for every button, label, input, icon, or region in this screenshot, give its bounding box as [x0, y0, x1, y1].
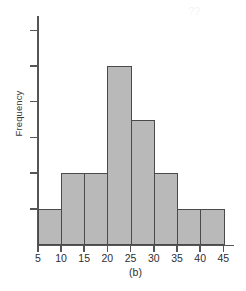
x-tick-label-35: 35	[164, 252, 190, 264]
histogram-bar	[107, 66, 132, 245]
histogram-bar	[61, 173, 86, 244]
x-tick-label-25: 25	[118, 252, 144, 264]
histogram-bar	[131, 120, 156, 245]
x-tick-5	[37, 245, 39, 252]
x-tick-30	[153, 245, 155, 252]
x-tick-35	[176, 245, 178, 252]
x-tick-label-10: 10	[48, 252, 74, 264]
x-tick-label-20: 20	[94, 252, 120, 264]
histogram-bar	[84, 173, 109, 244]
x-tick-label-5: 5	[25, 252, 51, 264]
histogram-bar	[200, 209, 225, 245]
x-tick-label-40: 40	[187, 252, 213, 264]
histogram-bar	[38, 209, 63, 245]
x-tick-label-45: 45	[210, 252, 236, 264]
histogram-bar	[154, 173, 179, 244]
x-tick-25	[130, 245, 132, 252]
x-tick-10	[60, 245, 62, 252]
x-tick-label-15: 15	[71, 252, 97, 264]
x-tick-45	[223, 245, 225, 252]
x-tick-label-30: 30	[141, 252, 167, 264]
x-tick-20	[107, 245, 109, 252]
x-tick-40	[199, 245, 201, 252]
figure-caption: (b)	[37, 266, 234, 278]
histogram-figure: ?? Frequency 51015202530354045 (b)	[0, 0, 246, 291]
histogram-bar	[177, 209, 202, 245]
x-tick-15	[83, 245, 85, 252]
